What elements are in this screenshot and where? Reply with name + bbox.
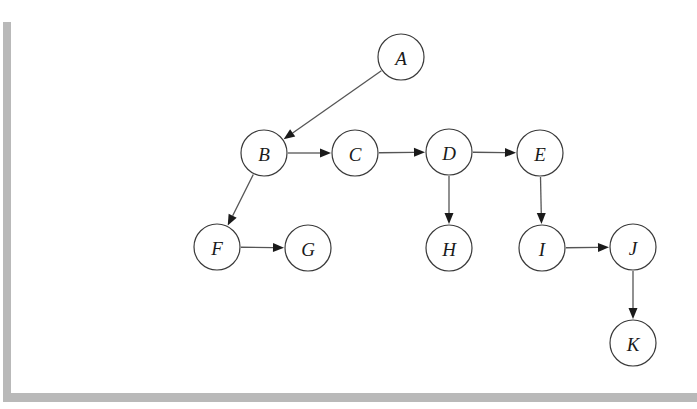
node-label: D bbox=[441, 143, 456, 164]
page-shadow-bottom-edge bbox=[3, 393, 697, 402]
graph-node-f[interactable]: F bbox=[194, 224, 240, 270]
arrowhead-icon bbox=[320, 149, 331, 158]
arrowhead-icon bbox=[629, 308, 638, 319]
arrowhead-icon bbox=[537, 213, 546, 224]
node-label: E bbox=[533, 144, 546, 165]
edge-d-to-e bbox=[473, 148, 516, 157]
edge-line bbox=[293, 71, 382, 133]
diagram-canvas: ABCDEFGHIJK bbox=[11, 0, 697, 393]
node-label: B bbox=[258, 144, 270, 165]
graph-node-g[interactable]: G bbox=[285, 225, 331, 271]
page-shadow-left-edge bbox=[3, 22, 11, 395]
edge-f-to-g bbox=[241, 243, 284, 252]
edge-d-to-h bbox=[445, 176, 454, 224]
graph-node-k[interactable]: K bbox=[610, 320, 656, 366]
node-label: A bbox=[393, 48, 407, 69]
edge-e-to-i bbox=[537, 177, 546, 224]
node-label: F bbox=[210, 238, 223, 259]
graph-node-b[interactable]: B bbox=[241, 130, 287, 176]
graph-node-e[interactable]: E bbox=[517, 130, 563, 176]
graph-node-h[interactable]: H bbox=[426, 225, 472, 271]
edge-line bbox=[541, 177, 542, 213]
node-label: H bbox=[441, 239, 457, 260]
graph-node-i[interactable]: I bbox=[519, 225, 565, 271]
node-label: G bbox=[301, 239, 315, 260]
edge-c-to-d bbox=[379, 148, 425, 157]
edges-layer bbox=[228, 71, 638, 319]
edge-a-to-b bbox=[284, 71, 382, 139]
graph-node-j[interactable]: J bbox=[610, 224, 656, 270]
edge-i-to-j bbox=[566, 243, 609, 252]
arrowhead-icon bbox=[505, 148, 516, 157]
arrowhead-icon bbox=[273, 243, 284, 252]
edge-line bbox=[233, 174, 254, 215]
nodes-layer: ABCDEFGHIJK bbox=[194, 34, 656, 366]
edge-j-to-k bbox=[629, 271, 638, 319]
edge-b-to-c bbox=[288, 149, 331, 158]
graph-node-a[interactable]: A bbox=[378, 34, 424, 80]
node-label: C bbox=[349, 144, 362, 165]
directed-graph: ABCDEFGHIJK bbox=[11, 0, 697, 393]
node-label: K bbox=[626, 334, 641, 355]
edge-b-to-f bbox=[228, 174, 254, 225]
graph-node-d[interactable]: D bbox=[426, 129, 472, 175]
arrowhead-icon bbox=[414, 148, 425, 157]
arrowhead-icon bbox=[598, 243, 609, 252]
page-root: ABCDEFGHIJK bbox=[0, 0, 697, 409]
arrowhead-icon bbox=[284, 129, 296, 139]
graph-node-c[interactable]: C bbox=[332, 130, 378, 176]
arrowhead-icon bbox=[445, 213, 454, 224]
